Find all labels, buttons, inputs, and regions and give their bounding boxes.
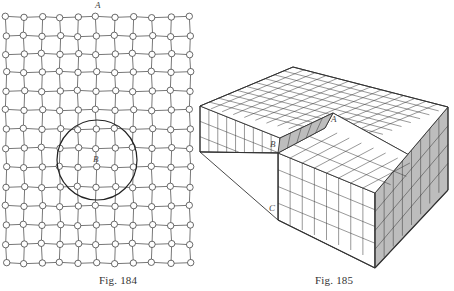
lattice-node	[169, 50, 175, 56]
lattice-node	[150, 32, 156, 38]
lattice-node	[149, 241, 155, 247]
lattice-node	[75, 164, 81, 170]
figure-canvas	[0, 0, 454, 291]
lattice-node	[148, 259, 154, 265]
lattice-node	[38, 144, 44, 150]
lattice-node	[93, 184, 99, 190]
lattice-node	[92, 146, 98, 152]
lattice-node	[111, 70, 117, 76]
lattice-node	[3, 33, 9, 39]
lattice-node	[94, 68, 100, 74]
lattice-node	[58, 32, 64, 38]
lattice-node	[188, 259, 194, 265]
lattice-node	[131, 13, 137, 19]
fig-185-label-b: B	[270, 139, 276, 149]
lattice-node	[21, 51, 27, 57]
lattice-node	[2, 106, 8, 112]
lattice-node	[56, 204, 62, 210]
lattice-node	[57, 88, 63, 94]
lattice-node	[111, 261, 117, 267]
lattice-node	[76, 144, 82, 150]
lattice-node	[168, 14, 174, 20]
lattice-node	[2, 242, 8, 248]
lattice-node	[148, 108, 154, 114]
lattice-node	[20, 261, 26, 267]
lattice-node	[169, 144, 175, 150]
lattice-node	[169, 240, 175, 246]
lattice-node	[93, 88, 99, 94]
lattice-node	[75, 260, 81, 266]
lattice-node	[57, 184, 63, 190]
lattice-node	[39, 260, 45, 266]
lattice-node	[3, 222, 9, 228]
lattice-node	[167, 34, 173, 40]
lattice-node	[130, 260, 136, 266]
lattice-node	[22, 183, 28, 189]
lattice-node	[56, 259, 62, 265]
lattice-node	[186, 242, 192, 248]
lattice-node	[111, 32, 117, 38]
lattice-node	[148, 163, 154, 169]
lattice-node	[130, 69, 136, 75]
lattice-node	[20, 32, 26, 38]
lattice-node	[131, 202, 137, 208]
fig-184-label-a: A	[95, 0, 101, 10]
lattice-node	[21, 241, 27, 247]
lattice-node	[186, 106, 192, 112]
lattice-node	[74, 223, 80, 229]
lattice-node	[21, 203, 27, 209]
lattice-node	[39, 69, 45, 75]
lattice-node	[3, 88, 9, 94]
lattice-node	[130, 126, 136, 132]
lattice-node	[149, 88, 155, 94]
lattice-node	[188, 68, 194, 74]
lattice-node	[168, 107, 174, 113]
lattice-node	[187, 222, 193, 228]
lattice-node	[167, 223, 173, 229]
fig-185-block-diagram	[200, 67, 448, 268]
lattice-node	[186, 52, 192, 58]
lattice-node	[40, 202, 46, 208]
lattice-node	[39, 164, 45, 170]
lattice-node	[168, 164, 174, 170]
lattice-node	[2, 13, 8, 19]
lattice-node	[186, 13, 192, 19]
lattice-node	[20, 221, 26, 227]
lattice-node	[129, 185, 135, 191]
lattice-node	[112, 107, 118, 113]
lattice-node	[75, 69, 81, 75]
lattice-node	[131, 106, 137, 112]
fig-184-caption: Fig. 184	[99, 274, 137, 286]
lattice-node	[187, 184, 193, 190]
lattice-node	[21, 107, 27, 113]
lattice-node	[20, 125, 26, 131]
lattice-node	[187, 126, 193, 132]
lattice-node	[92, 52, 98, 58]
fig-185-caption: Fig. 185	[315, 274, 353, 286]
lattice-node	[112, 203, 118, 209]
lattice-node	[20, 70, 26, 76]
lattice-node	[40, 106, 46, 112]
lattice-node	[167, 127, 173, 133]
lattice-node	[38, 89, 44, 95]
lattice-node	[130, 222, 136, 228]
lattice-node	[129, 240, 135, 246]
lattice-node	[186, 202, 192, 208]
lattice-node	[3, 163, 9, 169]
lattice-node	[2, 146, 8, 152]
lattice-node	[75, 203, 81, 209]
lattice-node	[129, 89, 135, 95]
lattice-node	[187, 33, 193, 39]
lattice-node	[168, 203, 174, 209]
lattice-node	[167, 87, 173, 93]
lattice-node	[75, 107, 81, 113]
lattice-node	[186, 146, 192, 152]
lattice-node	[92, 242, 98, 248]
fig-184-label-b: B	[93, 154, 99, 164]
lattice-node	[3, 68, 9, 74]
lattice-node	[56, 108, 62, 114]
lattice-node	[150, 125, 156, 131]
lattice-node	[94, 163, 100, 169]
lattice-node	[168, 260, 174, 266]
lattice-node	[187, 88, 193, 94]
